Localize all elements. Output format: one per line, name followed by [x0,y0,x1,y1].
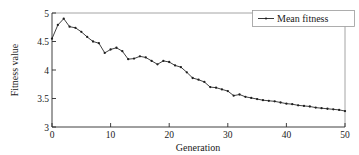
series-data-point [233,95,235,97]
x-axis-ticks [52,123,345,127]
series-data-point [285,102,287,104]
series-data-point [133,57,135,59]
y-tick-label: 5 [44,9,49,19]
y-tick-label: 4 [44,66,49,76]
series-data-point [86,36,88,38]
legend-label-mean-fitness: Mean fitness [277,13,328,24]
plot-frame [52,13,345,127]
series-data-point [92,40,94,42]
series-data-point [309,105,311,107]
x-tick-label: 50 [340,130,350,140]
series-data-point [268,100,270,102]
series-markers [51,18,346,113]
legend[interactable]: Mean fitness [253,11,355,27]
series-data-point [168,61,170,63]
series-data-point [191,77,193,79]
series-data-point [326,108,328,110]
series-data-point [186,71,188,73]
series-data-point [180,66,182,68]
series-data-point [291,103,293,105]
series-data-point [238,93,240,95]
series-data-point [80,31,82,33]
series-data-point [297,104,299,106]
series-data-point [156,63,158,65]
series-data-point [203,81,205,83]
series-data-point [139,55,141,57]
series-data-point [63,18,65,20]
series-data-point [227,90,229,92]
x-axis-title: Generation [176,142,220,153]
y-axis-title: Fitness value [9,43,20,96]
series-data-point [315,106,317,108]
series-data-point [74,27,76,29]
series-data-point [250,97,252,99]
series-data-point [98,42,100,44]
series-data-point [68,26,70,28]
series-data-point [57,24,59,26]
x-tick-label: 40 [282,130,292,140]
series-data-point [197,79,199,81]
x-tick-label: 30 [223,130,233,140]
x-tick-label: 0 [50,130,55,140]
series-data-point [274,100,276,102]
series-data-point [121,50,123,52]
series-data-point [145,56,147,58]
series-data-point [150,60,152,62]
y-tick-label: 4.5 [37,37,49,47]
x-tick-label: 10 [106,130,116,140]
x-tick-labels: 0 10 20 30 40 50 [50,130,350,140]
series-data-point [256,98,258,100]
chart-figure: 3 3.5 4 4.5 5 0 10 20 30 40 50 Generatio… [0,0,359,155]
series-line [52,19,345,111]
series-data-point [104,52,106,54]
series-data-point [332,108,334,110]
series-data-point [262,99,264,101]
y-tick-label: 3.5 [37,94,49,104]
y-tick-label: 3 [44,123,49,133]
line-chart: 3 3.5 4 4.5 5 0 10 20 30 40 50 Generatio… [0,0,359,155]
series-mean-fitness [51,18,346,113]
series-data-point [221,88,223,90]
series-data-point [320,107,322,109]
y-tick-labels: 3 3.5 4 4.5 5 [37,9,49,133]
series-data-point [115,47,117,49]
series-data-point [244,96,246,98]
series-data-point [303,105,305,107]
series-data-point [109,48,111,50]
series-data-point [127,58,129,60]
series-data-point [215,87,217,89]
series-data-point [344,110,346,112]
series-data-point [338,109,340,111]
series-data-point [209,86,211,88]
series-data-point [51,38,53,40]
series-data-point [162,60,164,62]
series-data-point [174,64,176,66]
legend-sample-marker [265,17,267,19]
series-data-point [279,101,281,103]
x-tick-label: 20 [164,130,174,140]
